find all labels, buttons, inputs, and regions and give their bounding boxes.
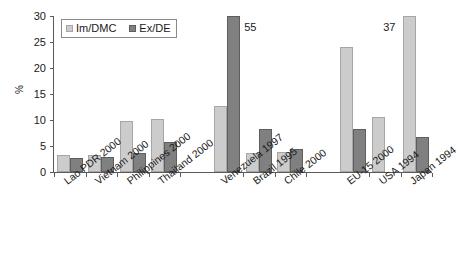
legend-label-ex-de: Ex/DE [139,22,170,34]
x-tick-mark [54,173,55,177]
legend-label-im-dmc: Im/DMC [76,22,116,34]
y-tick-label-20: 20 [22,63,46,74]
legend: Im/DMC Ex/DE [61,19,177,38]
x-tick-mark [306,173,307,177]
x-tick-mark [369,173,370,177]
value-annotation-37: 37 [383,22,395,33]
legend-swatch-icon-im-dmc [66,25,73,32]
y-tick-label-25: 25 [22,37,46,48]
value-annotation-55: 55 [244,22,256,33]
legend-item-im-dmc: Im/DMC [66,22,116,34]
x-tick-mark [243,173,244,177]
y-tick-label-0: 0 [22,167,46,178]
x-tick-mark [117,173,118,177]
x-tick-mark [149,173,150,177]
y-tick-label-15: 15 [22,89,46,100]
x-tick-mark [432,173,433,177]
legend-swatch-icon-ex-de [129,25,136,32]
bar-ex-de-venezuela-1997 [227,16,240,172]
x-tick-mark [180,173,181,177]
bar-im-dmc-lao-pdr-2000 [57,155,70,172]
legend-item-ex-de: Ex/DE [129,22,170,34]
bar-im-dmc-eu-15-2000 [340,47,353,172]
bar-im-dmc-venezuela-1997 [214,106,227,172]
x-tick-mark [86,173,87,177]
x-tick-mark [275,173,276,177]
y-tick-label-5: 5 [22,141,46,152]
y-tick-label-30: 30 [22,11,46,22]
y-tick-label-10: 10 [22,115,46,126]
x-tick-mark [401,173,402,177]
